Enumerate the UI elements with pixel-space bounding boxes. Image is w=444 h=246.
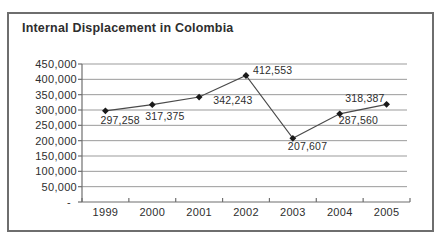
y-tick-label: 150,000 xyxy=(35,150,77,162)
y-tick-label: 200,000 xyxy=(35,135,77,147)
x-tick-label: 2000 xyxy=(139,206,165,218)
data-label: 342,243 xyxy=(213,94,252,106)
y-tick-label: 100,000 xyxy=(35,165,77,177)
data-label: 318,387 xyxy=(345,92,384,104)
x-tick-label: 2002 xyxy=(233,206,259,218)
line-chart: 450,000400,000350,000300,000250,000200,0… xyxy=(9,14,432,230)
x-tick-label: 2004 xyxy=(327,206,353,218)
data-label: 412,553 xyxy=(253,64,292,76)
y-tick-label: 400,000 xyxy=(35,73,77,85)
data-label: 317,375 xyxy=(145,110,184,122)
data-label: 297,258 xyxy=(100,114,139,126)
page: Internal Displacement in Colombia 450,00… xyxy=(0,0,444,246)
y-tick-label: 350,000 xyxy=(35,89,77,101)
y-tick-label: 450,000 xyxy=(35,58,77,70)
y-tick-label: 50,000 xyxy=(42,181,77,193)
x-tick-label: 2005 xyxy=(374,206,400,218)
data-label: 287,560 xyxy=(339,114,378,126)
x-tick-label: 2003 xyxy=(280,206,306,218)
data-point-marker xyxy=(149,101,156,108)
series-line xyxy=(105,75,386,138)
chart-panel: Internal Displacement in Colombia 450,00… xyxy=(7,12,434,232)
x-tick-label: 1999 xyxy=(93,206,119,218)
y-tick-label: - xyxy=(67,196,71,208)
x-tick-label: 2001 xyxy=(186,206,212,218)
data-label: 207,607 xyxy=(288,140,327,152)
y-tick-label: 300,000 xyxy=(35,104,77,116)
y-tick-label: 250,000 xyxy=(35,119,77,131)
